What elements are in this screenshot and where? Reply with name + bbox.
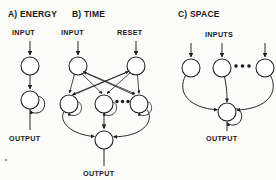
label-output-b: OUTPUT	[83, 169, 115, 178]
label-output-c: OUTPUT	[206, 134, 238, 143]
panel-title-time: B) TIME	[72, 9, 105, 19]
node-c-input-1	[182, 59, 200, 77]
node-a-lower	[21, 91, 39, 109]
node-b-hidden-1	[60, 95, 78, 113]
node-b-reset	[127, 57, 145, 75]
scan-speck	[5, 159, 7, 161]
node-c-output	[218, 103, 236, 121]
label-input-b: INPUT	[61, 28, 84, 37]
panel-title-energy: A) ENERGY	[8, 9, 57, 19]
node-a-upper	[21, 57, 39, 75]
node-b-hidden-3	[130, 95, 148, 113]
figure-background	[0, 0, 276, 180]
panel-title-space: C) SPACE	[178, 9, 220, 19]
label-inputs-c: INPUTS	[205, 30, 233, 39]
node-b-hidden-2	[95, 95, 113, 113]
label-reset-b: RESET	[117, 28, 143, 37]
node-c-input-2	[213, 59, 231, 77]
neural-architecture-figure: A) ENERGY B) TIME C) SPACE INPUT OUTPUT …	[0, 0, 276, 180]
ellipsis-b	[115, 100, 129, 103]
label-input-a: INPUT	[12, 28, 35, 37]
node-c-input-3	[256, 59, 274, 77]
label-output-a: OUTPUT	[9, 134, 41, 143]
node-b-output	[95, 131, 113, 149]
ellipsis-c	[234, 64, 251, 68]
